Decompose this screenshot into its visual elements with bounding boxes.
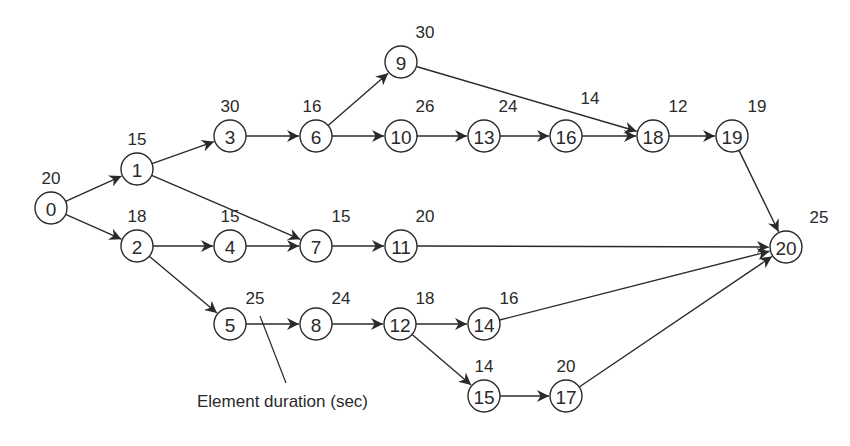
- node-number: 0: [46, 199, 57, 220]
- element-duration: 30: [221, 97, 240, 116]
- element-duration: 19: [748, 97, 767, 116]
- edge-0-to-2: [66, 214, 122, 239]
- node-18: 1812: [637, 97, 687, 152]
- node-number: 12: [389, 315, 410, 336]
- node-2: 218: [121, 207, 153, 262]
- nodes-layer: 0201152183304155256167158249301026112012…: [35, 23, 828, 412]
- element-duration: 26: [416, 97, 435, 116]
- edge-0-to-1: [66, 176, 122, 201]
- edge-12-to-15: [412, 334, 471, 385]
- node-3: 330: [214, 97, 246, 152]
- edge-17-to-20: [579, 257, 772, 387]
- node-number: 3: [225, 127, 236, 148]
- node-14: 1416: [468, 289, 518, 340]
- node-number: 14: [473, 315, 495, 336]
- node-number: 15: [473, 387, 494, 408]
- node-number: 20: [775, 238, 796, 259]
- element-duration: 25: [246, 289, 265, 308]
- element-duration: 18: [128, 207, 147, 226]
- node-number: 2: [132, 237, 143, 258]
- edge-1-to-3: [152, 142, 214, 164]
- element-duration: 24: [499, 97, 518, 116]
- node-11: 1120: [385, 207, 434, 262]
- edge-2-to-5: [149, 256, 217, 313]
- element-duration: 12: [669, 97, 688, 116]
- node-number: 11: [391, 237, 411, 258]
- element-duration: 16: [500, 289, 519, 308]
- node-7: 715: [300, 207, 350, 262]
- node-16: 1614: [550, 89, 599, 152]
- element-duration: 14: [475, 357, 494, 376]
- node-4: 415: [214, 207, 246, 262]
- node-15: 1514: [468, 357, 500, 412]
- node-number: 1: [132, 160, 143, 181]
- node-number: 17: [555, 387, 576, 408]
- callout-leader-line: [260, 316, 286, 383]
- element-duration: 16: [303, 97, 322, 116]
- node-19: 1919: [716, 97, 766, 152]
- node-5: 525: [214, 289, 264, 340]
- element-duration: 20: [42, 169, 61, 188]
- element-duration: 24: [332, 289, 351, 308]
- edge-6-to-9: [328, 73, 388, 125]
- node-number: 7: [311, 237, 322, 258]
- node-20: 2025: [770, 208, 828, 263]
- node-number: 19: [721, 127, 742, 148]
- node-number: 6: [311, 127, 322, 148]
- edge-11-to-20: [417, 246, 769, 247]
- node-6: 616: [300, 97, 332, 152]
- node-12: 1218: [384, 289, 434, 340]
- node-number: 13: [473, 127, 494, 148]
- element-duration: 20: [557, 357, 576, 376]
- node-number: 4: [225, 237, 236, 258]
- node-10: 1026: [385, 97, 434, 152]
- element-duration: 25: [810, 208, 829, 227]
- edge-9-to-18: [416, 67, 636, 132]
- node-number: 8: [311, 315, 322, 336]
- network-canvas: Element duration (sec) 02011521833041552…: [0, 0, 850, 446]
- element-duration: 20: [416, 207, 435, 226]
- node-17: 1720: [550, 357, 582, 412]
- node-0: 020: [35, 169, 67, 224]
- element-duration: 14: [581, 89, 600, 108]
- node-number: 18: [642, 127, 663, 148]
- element-duration: 18: [416, 289, 435, 308]
- node-number: 5: [225, 315, 236, 336]
- node-13: 1324: [468, 97, 517, 152]
- element-duration: 30: [416, 23, 435, 42]
- node-8: 824: [300, 289, 350, 340]
- callout-label: Element duration (sec): [197, 392, 368, 411]
- edge-19-to-20: [739, 150, 779, 231]
- node-1: 115: [121, 130, 153, 185]
- node-number: 9: [396, 53, 407, 74]
- element-duration: 15: [221, 207, 240, 226]
- element-duration: 15: [332, 207, 351, 226]
- element-duration: 15: [128, 130, 147, 149]
- node-number: 10: [390, 127, 411, 148]
- precedence-diagram: Element duration (sec) 02011521833041552…: [0, 0, 850, 446]
- node-number: 16: [555, 127, 576, 148]
